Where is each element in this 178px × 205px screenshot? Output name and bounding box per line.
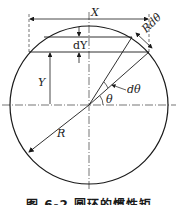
dtheta-pointer [112, 85, 126, 90]
figure-caption: 图 6-2 圆环的惯性矩 [0, 195, 178, 205]
radial-line-2 [89, 52, 149, 105]
rdtheta-dimension-line [136, 33, 152, 48]
label-theta: θ [106, 94, 113, 105]
label-dtheta: dθ [127, 84, 141, 95]
label-r: R [57, 128, 65, 139]
theta-arc [100, 96, 103, 105]
label-dy: dY [73, 40, 87, 51]
label-y: Y [38, 77, 45, 88]
dtheta-arc [104, 82, 108, 88]
label-x: X [91, 7, 99, 18]
